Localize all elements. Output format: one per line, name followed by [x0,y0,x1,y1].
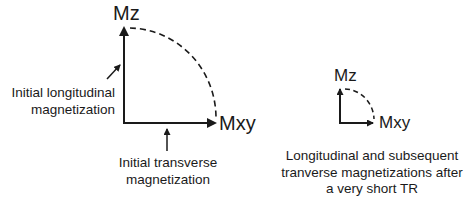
caption-line-2: tranverse magnetizations after [276,165,468,182]
transverse-annotation: Initial transverse magnetization [108,155,228,188]
left-dashed-arc [130,28,216,117]
right-panel-caption: Longitudinal and subsequent tranverse ma… [276,148,468,198]
right-dashed-arc [345,89,374,119]
right-mz-label: Mz [334,67,357,84]
longitudinal-pointer-arrow [107,65,120,79]
longitudinal-annotation-line-1: Initial longitudinal [11,85,115,102]
left-mz-label: Mz [113,3,140,23]
transverse-annotation-line-1: Initial transverse [108,155,228,172]
caption-line-3: a very short TR [276,181,468,198]
right-mxy-label: Mxy [379,114,410,131]
longitudinal-annotation-line-2: magnetization [11,102,115,119]
left-panel-axes [107,28,216,151]
right-panel-axes [339,89,374,123]
left-mxy-label: Mxy [219,113,256,133]
longitudinal-annotation: Initial longitudinal magnetization [11,85,115,118]
transverse-annotation-line-2: magnetization [108,172,228,189]
caption-line-1: Longitudinal and subsequent [276,148,468,165]
